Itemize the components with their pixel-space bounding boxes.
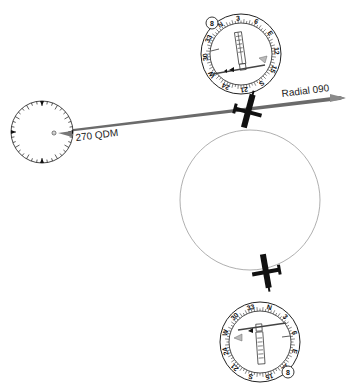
hsi-compass-mark: 30	[201, 53, 209, 61]
hsi-compass-mark: 12	[273, 47, 281, 55]
hsi-bottom: N36E1215S2124W3033 8	[220, 302, 300, 382]
hsi-compass-mark: 21	[240, 86, 248, 94]
radial-label: Radial 090	[281, 82, 330, 99]
radial-line	[57, 94, 346, 133]
orbit-circle	[180, 130, 320, 270]
diagram-svg: Radial 090 270 QDM N36E1215S2124W3033	[0, 0, 352, 390]
hsi-compass-mark: 3	[236, 14, 241, 21]
ndb-dial	[11, 101, 73, 163]
vor-diagram: Radial 090 270 QDM N36E1215S2124W3033	[0, 0, 352, 390]
hsi-top-course-value: 8	[210, 20, 214, 27]
aircraft-bottom-icon	[249, 252, 284, 294]
hsi-bottom-course-value: 8	[286, 369, 290, 376]
hsi-top: N36E1215S2124W3033	[201, 14, 281, 94]
